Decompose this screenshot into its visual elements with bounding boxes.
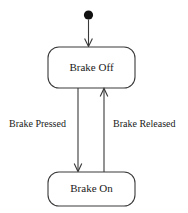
state-diagram-canvas: Brake Off Brake On Brake Pressed Brake R… <box>0 0 188 213</box>
transition-label-brake-pressed: Brake Pressed <box>9 118 66 129</box>
initial-state-dot <box>84 10 93 19</box>
state-label-brake-on: Brake On <box>70 182 113 194</box>
state-label-brake-off: Brake Off <box>69 61 113 73</box>
state-diagram: Brake Off Brake On Brake Pressed Brake R… <box>0 0 188 213</box>
transition-label-brake-released: Brake Released <box>113 118 175 129</box>
